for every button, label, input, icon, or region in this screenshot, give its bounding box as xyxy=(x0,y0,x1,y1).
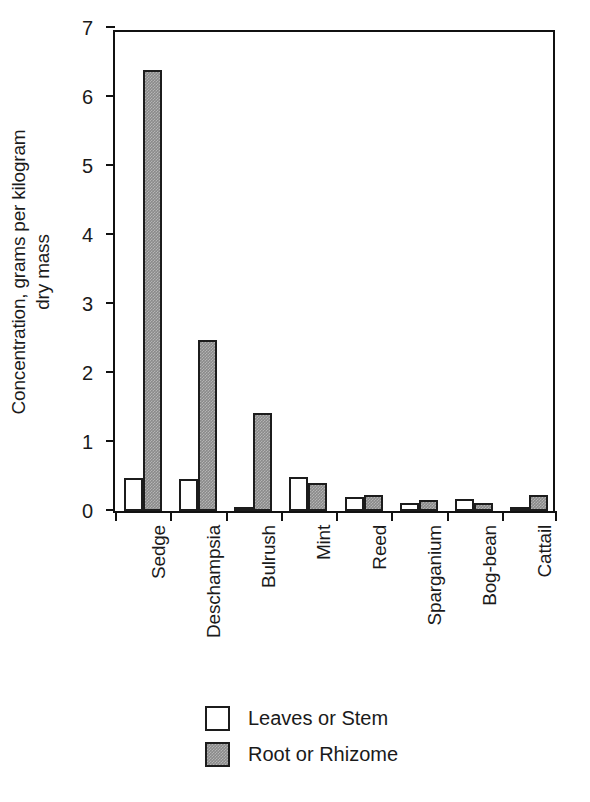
bar-root-mint xyxy=(308,483,327,511)
y-axis-tick: 7 xyxy=(106,26,115,28)
plot-area: 01234567 xyxy=(113,30,555,513)
y-axis-tick: 6 xyxy=(106,95,115,97)
y-axis-tick-label: 2 xyxy=(82,363,93,383)
x-axis-label-cattail: Cattail xyxy=(535,525,554,577)
y-axis-tick-label: 0 xyxy=(82,501,93,521)
bar-leaves-sedge xyxy=(124,478,143,511)
legend-item-root: Root or Rhizome xyxy=(205,736,398,772)
bar-leaves-reed xyxy=(345,497,364,511)
bar-root-deschampsia xyxy=(198,340,217,511)
y-axis-tick: 1 xyxy=(106,440,115,442)
y-axis-tick: 4 xyxy=(106,233,115,235)
y-axis-tick-label: 1 xyxy=(82,432,93,452)
x-axis-tick xyxy=(502,511,504,521)
x-axis-tick xyxy=(336,511,338,521)
y-axis-tick-label: 7 xyxy=(82,18,93,38)
x-axis-tick xyxy=(115,511,117,521)
bar-root-bulrush xyxy=(253,413,272,511)
bar-root-sparganium xyxy=(419,500,438,511)
legend-item-leaves: Leaves or Stem xyxy=(205,700,398,736)
y-axis-tick: 3 xyxy=(106,302,115,304)
bar-leaves-deschampsia xyxy=(179,479,198,511)
legend-swatch-root xyxy=(205,742,230,767)
x-axis-label-mint: Mint xyxy=(314,525,333,560)
y-axis-tick: 2 xyxy=(106,371,115,373)
x-axis-tick xyxy=(170,511,172,521)
bar-root-reed xyxy=(364,495,383,511)
x-axis-tick xyxy=(555,511,557,521)
x-axis-tick xyxy=(226,511,228,521)
x-axis-label-sedge: Sedge xyxy=(149,525,168,579)
y-axis-tick-label: 3 xyxy=(82,294,93,314)
bar-leaves-sparganium xyxy=(400,503,419,511)
x-axis-label-reed: Reed xyxy=(370,525,389,570)
y-axis-tick: 5 xyxy=(106,164,115,166)
y-axis-title-line-2: dry mass xyxy=(31,129,55,414)
bar-root-cattail xyxy=(529,495,548,511)
x-axis-tick xyxy=(391,511,393,521)
bar-root-bog-bean xyxy=(474,503,493,511)
legend-swatch-leaves xyxy=(205,706,230,731)
bar-leaves-bog-bean xyxy=(455,499,474,511)
x-axis-tick xyxy=(281,511,283,521)
y-axis-title: Concentration, grams per kilogram dry ma… xyxy=(0,30,62,513)
bar-leaves-cattail xyxy=(510,507,529,511)
x-axis-category-labels: SedgeDeschampsiaBulrushMintReedSparganiu… xyxy=(113,525,555,675)
x-axis-label-deschampsia: Deschampsia xyxy=(204,525,223,638)
x-axis-label-bulrush: Bulrush xyxy=(259,525,278,588)
legend-label-leaves: Leaves or Stem xyxy=(248,708,388,728)
y-axis-tick-label: 5 xyxy=(82,156,93,176)
y-axis-tick: 0 xyxy=(106,509,115,511)
bar-leaves-mint xyxy=(289,477,308,511)
legend-label-root: Root or Rhizome xyxy=(248,744,398,764)
x-axis-tick xyxy=(447,511,449,521)
x-axis-label-bog-bean: Bog-bean xyxy=(480,525,499,606)
bar-root-sedge xyxy=(143,70,162,511)
bar-leaves-bulrush xyxy=(234,507,253,511)
y-axis-title-line-1: Concentration, grams per kilogram xyxy=(7,129,31,414)
chart-legend: Leaves or StemRoot or Rhizome xyxy=(205,700,398,772)
bar-chart-figure: Concentration, grams per kilogram dry ma… xyxy=(0,0,590,802)
y-axis-tick-label: 6 xyxy=(82,87,93,107)
x-axis-label-sparganium: Sparganium xyxy=(425,525,444,625)
y-axis-tick-label: 4 xyxy=(82,225,93,245)
